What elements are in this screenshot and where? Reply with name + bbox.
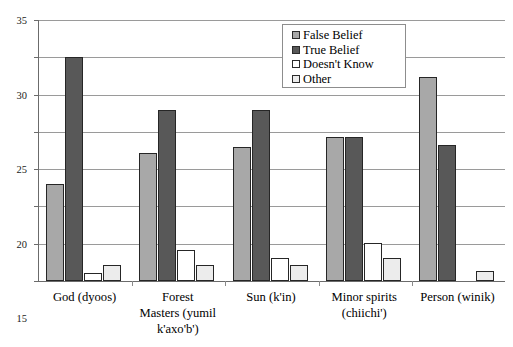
y-axis-tick: 15 [34, 169, 39, 170]
y-axis-tick: 5 [34, 244, 39, 245]
bar [364, 243, 382, 281]
y-axis-tick-label: 35 [17, 16, 28, 27]
legend-item: True Belief [292, 43, 405, 58]
bar [233, 147, 251, 281]
x-axis-category-label-line: k'axo'b') [117, 321, 238, 337]
bar [345, 137, 363, 281]
legend-swatch-icon [292, 75, 300, 83]
x-axis-category-label-line: (chiichi') [304, 305, 425, 321]
legend-swatch-icon [292, 46, 300, 54]
bar [65, 57, 83, 281]
bar [84, 273, 102, 281]
y-axis-tick: 20 [34, 132, 39, 133]
x-axis-category-label-line: Masters (yumil [117, 305, 238, 321]
gridline [39, 20, 505, 21]
bar [252, 110, 270, 282]
x-axis-tick [132, 281, 133, 286]
bar [158, 110, 176, 282]
legend-item-label: False Belief [303, 29, 363, 41]
chart-legend: False BeliefTrue BeliefDoesn't KnowOther [282, 24, 406, 88]
bar [271, 258, 289, 281]
bar [326, 137, 344, 281]
bar-chart: 05101520253035 False BeliefTrue BeliefDo… [0, 0, 513, 347]
legend-swatch-icon [292, 60, 300, 68]
legend-item: False Belief [292, 28, 405, 43]
legend-item: Other [292, 72, 405, 87]
y-axis-tick: 35 [34, 20, 39, 21]
y-axis-tick-label: 20 [17, 239, 28, 250]
bar [139, 153, 157, 281]
legend-item: Doesn't Know [292, 57, 405, 72]
bar [177, 250, 195, 281]
bar [290, 265, 308, 281]
gridline [39, 57, 505, 58]
bar [383, 258, 401, 281]
legend-swatch-icon [292, 31, 300, 39]
x-axis-tick [225, 281, 226, 286]
bar [476, 271, 494, 281]
y-axis-tick-label: 15 [17, 314, 28, 325]
bar [196, 265, 214, 281]
y-axis-tick: 30 [34, 57, 39, 58]
legend-item-label: Other [303, 73, 331, 85]
y-axis-tick-label: 25 [17, 165, 28, 176]
y-axis-tick: 25 [34, 95, 39, 96]
y-axis-tick: 0 [34, 281, 39, 282]
legend-item-label: True Belief [303, 44, 359, 56]
y-axis-tick-label: 30 [17, 90, 28, 101]
bar [103, 265, 121, 281]
x-axis-category-label: Person (winik) [397, 289, 513, 305]
bar [438, 145, 456, 281]
bar [419, 77, 437, 281]
x-axis-tick [412, 281, 413, 286]
x-axis-tick [319, 281, 320, 286]
plot-area: 05101520253035 [38, 20, 505, 282]
legend-item-label: Doesn't Know [303, 58, 374, 70]
y-axis-tick: 10 [34, 206, 39, 207]
bar [46, 184, 64, 281]
x-axis-category-label-line: Person (winik) [397, 289, 513, 305]
